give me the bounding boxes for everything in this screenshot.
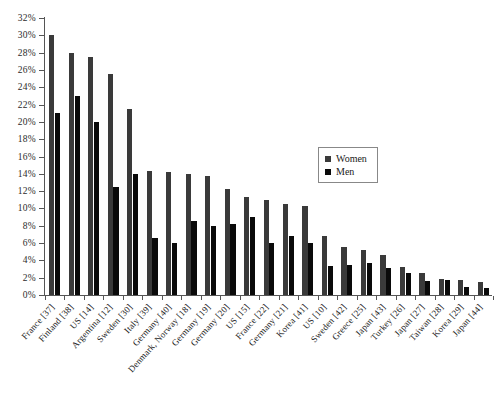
x-axis-tick-mark	[201, 296, 202, 300]
x-axis-category-label: Japan [27]	[392, 302, 426, 338]
x-axis-category-label: Korea [41]	[274, 302, 309, 339]
y-axis-tick-mark	[39, 174, 44, 175]
bar-men	[406, 273, 411, 296]
y-axis-tick-mark	[39, 35, 44, 36]
bar-men	[445, 280, 450, 295]
bar-women	[69, 53, 74, 295]
x-axis-tick-mark	[415, 296, 416, 300]
bar-women	[302, 206, 307, 295]
legend-swatch-women-icon	[325, 156, 331, 162]
bar-men	[464, 287, 469, 295]
y-axis-tick-mark	[39, 53, 44, 54]
legend-entry-men: Men	[325, 165, 367, 178]
bar-men	[425, 281, 430, 295]
legend-label-women: Women	[336, 153, 367, 165]
x-axis-category-label: Japan [43]	[353, 302, 387, 338]
y-axis-tick-label: 32%	[0, 13, 36, 23]
bar-women	[166, 172, 171, 295]
bar-men	[367, 263, 372, 295]
x-axis-category-label: Germany [19]	[169, 302, 212, 348]
bar-women	[341, 247, 346, 295]
y-axis-tick-mark	[39, 157, 44, 158]
bar-men	[211, 226, 216, 295]
x-axis-category-label: Japan [44]	[451, 302, 485, 338]
y-axis-tick-label: 2%	[0, 273, 36, 283]
bar-women	[419, 273, 424, 296]
x-axis-tick-mark	[181, 296, 182, 300]
bar-women	[458, 280, 463, 295]
bar-women	[108, 74, 113, 295]
y-axis-tick-mark	[39, 278, 44, 279]
x-axis-tick-mark	[64, 296, 65, 300]
bar-men	[113, 187, 118, 295]
x-axis-category-label: US [14]	[68, 302, 96, 331]
x-axis-tick-mark	[493, 296, 494, 300]
y-axis-tick-label: 30%	[0, 30, 36, 40]
y-axis-tick-mark	[39, 226, 44, 227]
x-axis-category-label: Greece [25]	[330, 302, 367, 342]
y-axis-tick-label: 6%	[0, 238, 36, 248]
x-axis-category-label: US [10]	[301, 302, 329, 331]
y-axis-tick-mark	[39, 139, 44, 140]
y-axis-tick-label: 20%	[0, 117, 36, 127]
y-axis-tick-mark	[39, 87, 44, 88]
bar-women	[264, 200, 269, 295]
bar-women	[225, 189, 230, 295]
plot-area	[45, 18, 493, 295]
bar-men	[308, 243, 313, 295]
x-axis-category-label: US [15]	[223, 302, 251, 331]
y-axis-tick-mark	[39, 260, 44, 261]
bar-men	[230, 224, 235, 295]
legend-entry-women: Women	[325, 152, 367, 165]
bar-men	[75, 96, 80, 295]
legend-swatch-men-icon	[325, 169, 331, 175]
x-axis-tick-mark	[376, 296, 377, 300]
x-axis-category-label: Taiwan [28]	[408, 302, 446, 343]
x-axis-category-label: Germany [20]	[188, 302, 231, 348]
y-axis-tick-mark	[39, 105, 44, 106]
y-axis-tick-label: 26%	[0, 65, 36, 75]
y-axis-tick-label: 22%	[0, 100, 36, 110]
bar-men	[133, 174, 138, 295]
x-axis-tick-mark	[454, 296, 455, 300]
x-axis-tick-mark	[474, 296, 475, 300]
y-axis-tick-mark	[39, 208, 44, 209]
y-axis-tick-mark	[39, 122, 44, 123]
bar-men	[289, 236, 294, 295]
bar-women	[361, 250, 366, 295]
bar-men	[55, 113, 60, 295]
x-axis-tick-mark	[240, 296, 241, 300]
x-axis-tick-mark	[142, 296, 143, 300]
bar-women	[400, 267, 405, 295]
bar-women	[283, 204, 288, 295]
x-axis-category-label: Turkey [26]	[369, 302, 407, 342]
bar-women	[244, 197, 249, 295]
x-axis-tick-mark	[279, 296, 280, 300]
x-axis-category-label: Argentina [12]	[70, 302, 115, 350]
bar-women	[88, 57, 93, 295]
bar-women	[127, 109, 132, 295]
bar-men	[328, 266, 333, 295]
x-axis-tick-mark	[318, 296, 319, 300]
bar-men	[172, 243, 177, 295]
y-axis-tick-mark	[39, 70, 44, 71]
chart-legend: Women Men	[318, 147, 378, 183]
y-axis-tick-mark	[39, 191, 44, 192]
y-axis-tick-mark	[39, 243, 44, 244]
x-axis-tick-mark	[357, 296, 358, 300]
bar-women	[147, 171, 152, 295]
x-axis-tick-mark	[162, 296, 163, 300]
bar-women	[439, 279, 444, 295]
y-axis-tick-label: 8%	[0, 221, 36, 231]
y-axis-tick-label: 12%	[0, 186, 36, 196]
bar-women	[322, 236, 327, 295]
bar-men	[94, 122, 99, 295]
y-axis-tick-label: 18%	[0, 134, 36, 144]
x-axis-tick-mark	[396, 296, 397, 300]
y-axis-tick-label: 16%	[0, 152, 36, 162]
y-axis-tick-mark	[39, 295, 44, 296]
bar-women	[186, 174, 191, 295]
x-axis-tick-mark	[45, 296, 46, 300]
x-axis-category-label: Denmark, Norway [18]	[126, 302, 192, 374]
x-axis-tick-mark	[220, 296, 221, 300]
